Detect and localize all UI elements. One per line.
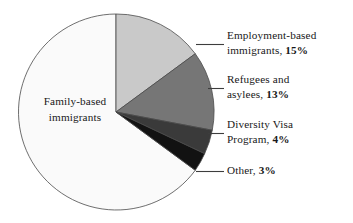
pie-label-employment-percent: 15% bbox=[285, 44, 308, 56]
pie-label-refugees-percent: 13% bbox=[266, 88, 289, 100]
pie-label-employment-text: immigrants, bbox=[227, 44, 285, 56]
pie-label-refugees-text: asylees, bbox=[227, 88, 266, 100]
pie-label-other-percent: 3% bbox=[259, 164, 276, 176]
pie-label-employment-line2: immigrants, 15% bbox=[227, 43, 316, 58]
pie-label-refugees-and-asylees: Refugees and asylees, 13% bbox=[227, 72, 289, 101]
pie-label-refugees-line1: Refugees and bbox=[227, 72, 289, 87]
pie-label-other-line1: Other, 3% bbox=[227, 163, 276, 178]
pie-label-diversity-visa-program: Diversity Visa Program, 4% bbox=[227, 117, 293, 146]
pie-label-refugees-line2: asylees, 13% bbox=[227, 87, 289, 102]
pie-label-employment-line1: Employment-based bbox=[227, 28, 316, 43]
pie-label-diversity-percent: 4% bbox=[272, 133, 289, 145]
pie-label-diversity-line1: Diversity Visa bbox=[227, 117, 293, 132]
pie-chart-figure: Employment-based immigrants, 15% Refugee… bbox=[0, 0, 353, 223]
pie-label-employment-based-immigrants: Employment-based immigrants, 15% bbox=[227, 28, 316, 57]
pie-label-other: Other, 3% bbox=[227, 163, 276, 178]
pie-label-family-line2: immigrants bbox=[27, 109, 123, 125]
pie-label-family-line1: Family-based bbox=[27, 93, 123, 109]
pie-label-diversity-line2: Program, 4% bbox=[227, 132, 293, 147]
pie-label-diversity-text: Program, bbox=[227, 133, 272, 145]
pie-label-family-based-immigrants: Family-based immigrants bbox=[27, 93, 123, 125]
pie-label-other-text: Other, bbox=[227, 164, 259, 176]
